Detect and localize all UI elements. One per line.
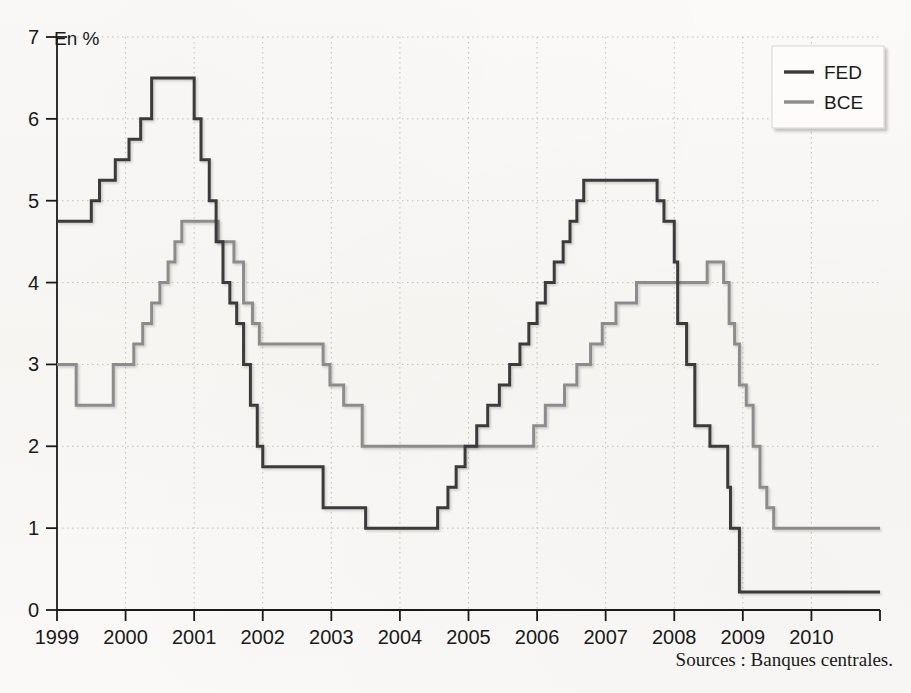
x-axis-tick-label: 2006 (515, 626, 560, 648)
y-axis-tick-label: 4 (28, 272, 39, 294)
chart-legend[interactable]: FEDBCE (772, 46, 884, 128)
x-axis-tick-label: 2005 (446, 626, 491, 648)
y-axis-unit-label: En % (54, 28, 100, 49)
y-axis-tick-label: 7 (28, 26, 39, 48)
series-line-fed (57, 78, 880, 592)
x-axis-tick-label: 2004 (378, 626, 423, 648)
axes (46, 37, 880, 621)
y-axis-tick-label: 1 (28, 517, 39, 539)
x-axis-tick-label: 2008 (652, 626, 697, 648)
x-axis-tick-label: 2010 (789, 626, 834, 648)
x-axis-tick-label: 2000 (103, 626, 148, 648)
legend-label-bce[interactable]: BCE (824, 92, 863, 113)
chart-page: 0123456719992000200120022003200420052006… (0, 0, 911, 693)
interest-rate-line-chart: 0123456719992000200120022003200420052006… (0, 0, 911, 693)
x-axis-tick-label: 2007 (583, 626, 628, 648)
y-axis-tick-label: 0 (28, 599, 39, 621)
x-axis-tick-label: 2001 (172, 626, 217, 648)
x-axis-tick-label: 1999 (35, 626, 80, 648)
x-axis-tick-label: 2009 (721, 626, 766, 648)
grid-lines (57, 37, 880, 610)
source-note: Sources : Banques centrales. (676, 649, 893, 671)
y-axis-tick-label: 3 (28, 353, 39, 375)
x-axis-tick-label: 2003 (309, 626, 354, 648)
y-axis-tick-label: 5 (28, 190, 39, 212)
x-axis-tick-label: 2002 (241, 626, 286, 648)
y-axis-tick-label: 2 (28, 435, 39, 457)
data-series (57, 78, 880, 592)
legend-box (772, 46, 884, 128)
y-axis-tick-label: 6 (28, 108, 39, 130)
legend-label-fed[interactable]: FED (824, 62, 862, 83)
